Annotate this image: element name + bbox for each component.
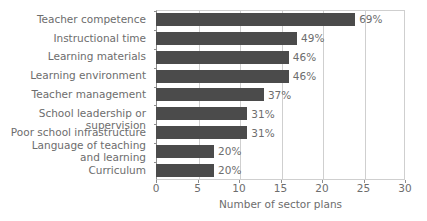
bar-value-label: 69% — [359, 14, 382, 25]
x-tick-mark — [156, 180, 157, 183]
bar-value-label: 49% — [301, 33, 324, 44]
bar[interactable] — [156, 70, 289, 83]
bar-row[interactable]: 69% — [156, 10, 383, 29]
x-axis-title: Number of sector plans — [156, 198, 405, 210]
bar[interactable] — [156, 32, 297, 45]
bar[interactable] — [156, 126, 247, 139]
category-label: Teacher management — [0, 89, 151, 101]
bar-value-label: 20% — [218, 165, 241, 176]
bar-value-label: 46% — [293, 52, 316, 63]
bar-value-label: 31% — [251, 128, 274, 139]
bar-value-label: 46% — [293, 71, 316, 82]
bar[interactable] — [156, 107, 247, 120]
x-tick-label: 5 — [194, 182, 201, 194]
category-label: Learning environment — [0, 70, 151, 82]
bar-value-label: 37% — [268, 90, 291, 101]
x-tick-label: 30 — [398, 182, 411, 194]
x-tick-label: 25 — [357, 182, 370, 194]
category-label: Poor school infrastructure — [0, 127, 151, 139]
bar-row[interactable]: 31% — [156, 104, 275, 123]
x-tick-mark — [322, 180, 323, 183]
bar[interactable] — [156, 164, 214, 177]
bar[interactable] — [156, 13, 355, 26]
x-tick-label: 0 — [153, 182, 160, 194]
category-label: Curriculum — [0, 165, 151, 177]
bars-layer: 69%49%46%46%37%31%31%20%20% — [156, 10, 405, 180]
x-tick-mark — [405, 180, 406, 183]
category-label: Learning materials — [0, 51, 151, 63]
bar-value-label: 20% — [218, 146, 241, 157]
bar-chart: Teacher competenceInstructional timeLear… — [0, 0, 427, 221]
category-axis-labels: Teacher competenceInstructional timeLear… — [0, 10, 151, 180]
bar[interactable] — [156, 51, 289, 64]
x-tick-label: 15 — [274, 182, 287, 194]
category-label: Teacher competence — [0, 14, 151, 26]
bar-row[interactable]: 20% — [156, 142, 241, 161]
bar-row[interactable]: 20% — [156, 161, 241, 180]
x-tick-mark — [364, 180, 365, 183]
category-label: Language of teaching and learning — [0, 140, 151, 163]
bar-value-label: 31% — [251, 109, 274, 120]
bar[interactable] — [156, 145, 214, 158]
x-tick-label: 20 — [315, 182, 328, 194]
bar-row[interactable]: 46% — [156, 67, 316, 86]
bar-row[interactable]: 49% — [156, 29, 324, 48]
x-tick-mark — [281, 180, 282, 183]
x-tick-label: 10 — [232, 182, 245, 194]
bar-row[interactable]: 46% — [156, 48, 316, 67]
x-tick-mark — [198, 180, 199, 183]
x-tick-mark — [239, 180, 240, 183]
category-label: Instructional time — [0, 33, 151, 45]
bar-row[interactable]: 37% — [156, 86, 291, 105]
x-axis-tick-labels: 051015202530 — [0, 182, 427, 196]
bar-row[interactable]: 31% — [156, 123, 275, 142]
bar[interactable] — [156, 88, 264, 101]
